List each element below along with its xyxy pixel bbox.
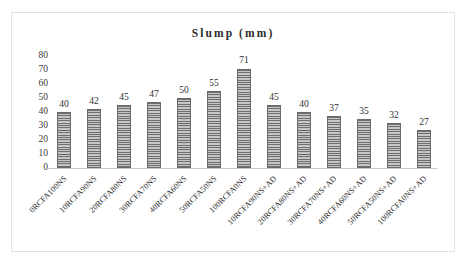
y-axis-tick: 20	[18, 135, 48, 145]
chart-title: Slump (mm)	[12, 27, 454, 39]
plot-area: 40424547505571454037353227	[49, 56, 439, 168]
x-tick-group: 100RCFA0NS+AD	[409, 172, 439, 250]
bar-group: 42	[79, 56, 109, 168]
bar	[237, 69, 251, 168]
bar-group: 50	[169, 56, 199, 168]
bar	[417, 130, 431, 168]
bar-value-label: 71	[239, 56, 249, 66]
bar-group: 32	[379, 56, 409, 168]
chart-container: Slump (mm) 80706050403020100 40424547505…	[11, 12, 455, 252]
bar-value-label: 40	[299, 100, 309, 110]
bar-value-label: 32	[389, 111, 399, 121]
bar	[297, 112, 311, 168]
y-axis-tick: 30	[18, 121, 48, 131]
y-axis-tick: 60	[18, 79, 48, 89]
y-axis: 80706050403020100	[18, 56, 48, 168]
x-axis-line	[48, 168, 437, 169]
bar-value-label: 50	[179, 86, 189, 96]
bar	[327, 116, 341, 168]
bar-group: 45	[259, 56, 289, 168]
bar	[117, 105, 131, 168]
bar-group: 40	[49, 56, 79, 168]
bar-group: 40	[289, 56, 319, 168]
bar-value-label: 55	[209, 79, 219, 89]
bar	[207, 91, 221, 168]
bar-value-label: 27	[419, 118, 429, 128]
y-axis-tick: 40	[18, 107, 48, 117]
bar-group: 37	[319, 56, 349, 168]
bar-value-label: 47	[149, 90, 159, 100]
y-axis-tick: 70	[18, 65, 48, 75]
bar-value-label: 42	[89, 97, 99, 107]
bar-value-label: 40	[59, 100, 69, 110]
bar-value-label: 37	[329, 104, 339, 114]
y-axis-tick: 0	[18, 163, 48, 173]
bar-group: 45	[109, 56, 139, 168]
y-axis-tick: 80	[18, 51, 48, 61]
bar-value-label: 45	[119, 93, 129, 103]
bar-group: 71	[229, 56, 259, 168]
bar	[147, 102, 161, 168]
bar	[57, 112, 71, 168]
bar-value-label: 45	[269, 93, 279, 103]
bar	[267, 105, 281, 168]
bar	[387, 123, 401, 168]
bar	[357, 119, 371, 168]
bar-value-label: 35	[359, 107, 369, 117]
x-axis-labels: 0RCFA100NS10RCFA90NS20RCFA80NS30RCFA70NS…	[49, 172, 439, 250]
bar	[87, 109, 101, 168]
y-axis-tick: 50	[18, 93, 48, 103]
bar-group: 27	[409, 56, 439, 168]
bar-group: 55	[199, 56, 229, 168]
bar	[177, 98, 191, 168]
bar-group: 47	[139, 56, 169, 168]
y-axis-tick: 10	[18, 149, 48, 159]
bar-group: 35	[349, 56, 379, 168]
